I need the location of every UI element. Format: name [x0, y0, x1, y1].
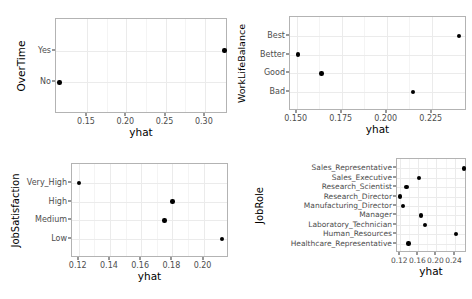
x-tick-mark [385, 110, 386, 113]
gridline-vertical-minor [94, 164, 95, 256]
scatter-panel-figure: OverTimeNoYes0.150.200.250.30yhatWorkLif… [0, 0, 472, 299]
gridline-vertical [455, 159, 456, 251]
x-tick-label: 0.200 [374, 114, 397, 123]
gridline-vertical [166, 19, 167, 112]
y-axis-title-jobsatisfaction: JobSatisfaction [7, 163, 23, 257]
x-tick-label: 0.24 [445, 256, 462, 265]
x-tick-mark [203, 113, 204, 116]
x-tick-mark [430, 110, 431, 113]
y-axis-ticks-jobsatisfaction: LowMediumHighVery_High [25, 163, 71, 257]
data-point [411, 90, 415, 94]
data-point [222, 48, 226, 52]
plot-area-jobrole [396, 158, 466, 252]
data-point [462, 166, 466, 170]
y-tick-label: Best [267, 30, 285, 39]
data-point [406, 241, 410, 245]
x-tick-mark [340, 110, 341, 113]
data-point [77, 181, 81, 185]
y-axis-title-label: WorkLifeBalance [237, 23, 248, 102]
x-tick-mark [86, 113, 87, 116]
x-tick-mark [125, 113, 126, 116]
y-axis-title-label: OverTime [15, 40, 27, 91]
x-tick-mark [295, 110, 296, 113]
gridline-vertical [141, 164, 142, 256]
y-tick-label: Healthcare_Representative [291, 238, 392, 247]
y-tick-label: Manager [359, 210, 392, 219]
panel-jobrole: JobRoleHealthcare_RepresentativeHuman_Re… [236, 150, 472, 299]
gridline-vertical [205, 19, 206, 112]
gridline-horizontal [290, 55, 465, 56]
gridline-horizontal [397, 215, 465, 216]
panel-worklifebalance: WorkLifeBalanceBadGoodBetterBest0.1500.1… [236, 0, 472, 150]
gridline-vertical-minor [126, 164, 127, 256]
y-tick-label: Human_Resources [323, 229, 392, 238]
y-axis-title-jobrole: JobRole [252, 158, 266, 252]
gridline-horizontal [290, 73, 465, 74]
data-point [296, 52, 300, 56]
gridline-vertical-minor [146, 19, 147, 112]
gridline-vertical-minor [185, 19, 186, 112]
gridline-vertical-minor [409, 159, 410, 251]
gridline-vertical [418, 159, 419, 251]
y-axis-title-worklifebalance: WorkLifeBalance [235, 16, 249, 110]
y-tick-label: Research_Scientist [322, 182, 392, 191]
y-axis-ticks-overtime: NoYes [31, 18, 55, 113]
y-tick-label: Sales_Representative [312, 163, 392, 172]
x-tick-label: 0.225 [419, 114, 442, 123]
gridline-horizontal [397, 225, 465, 226]
x-tick-label: 0.14 [100, 261, 118, 270]
plot-area-jobsatisfaction [71, 163, 228, 257]
y-tick-label: Better [260, 49, 285, 58]
x-tick-label: 0.25 [156, 117, 174, 126]
x-tick-label: 0.20 [194, 261, 212, 270]
gridline-horizontal [397, 206, 465, 207]
y-tick-label: Research_Director [324, 191, 392, 200]
x-tick-mark [399, 252, 400, 255]
x-tick-label: 0.30 [195, 117, 213, 126]
gridline-vertical [297, 17, 298, 109]
gridline-vertical-minor [188, 164, 189, 256]
gridline-vertical [126, 19, 127, 112]
gridline-vertical-minor [364, 17, 365, 109]
gridline-vertical [432, 17, 433, 109]
gridline-vertical [87, 19, 88, 112]
gridline-vertical-minor [427, 159, 428, 251]
x-tick-label: 0.12 [391, 256, 408, 265]
gridline-horizontal [56, 51, 226, 52]
x-tick-mark [171, 257, 172, 260]
plot-area-overtime [55, 18, 227, 113]
y-tick-label: No [40, 77, 51, 86]
x-tick-mark [77, 257, 78, 260]
x-tick-label: 0.150 [284, 114, 307, 123]
panel-overtime: OverTimeNoYes0.150.200.250.30yhat [0, 0, 236, 150]
panel-jobsatisfaction: JobSatisfactionLowMediumHighVery_High0.1… [0, 150, 236, 299]
plot-area-worklifebalance [289, 16, 466, 110]
y-tick-label: High [49, 196, 67, 205]
y-axis-title-label: JobSatisfaction [10, 173, 21, 247]
y-tick-label: Manufacturing_Director [304, 201, 392, 210]
data-point [423, 223, 427, 227]
y-tick-label: Very_High [27, 177, 67, 186]
x-tick-label: 0.18 [162, 261, 180, 270]
y-tick-label: Medium [35, 215, 67, 224]
gridline-horizontal [72, 183, 227, 184]
gridline-horizontal [72, 202, 227, 203]
gridline-vertical [387, 17, 388, 109]
gridline-vertical [172, 164, 173, 256]
data-point [170, 199, 174, 203]
data-point [398, 194, 402, 198]
x-tick-label: 0.12 [69, 261, 87, 270]
gridline-vertical-minor [107, 19, 108, 112]
y-tick-label: Yes [38, 45, 51, 54]
data-point [220, 237, 224, 241]
x-tick-mark [202, 257, 203, 260]
gridline-horizontal [290, 36, 465, 37]
gridline-vertical-minor [409, 17, 410, 109]
gridline-vertical-minor [446, 159, 447, 251]
x-axis-title-overtime: yhat [55, 126, 227, 138]
y-tick-label: Good [264, 68, 285, 77]
data-point [419, 213, 423, 217]
gridline-horizontal [72, 239, 227, 240]
x-tick-mark [164, 113, 165, 116]
data-point [162, 218, 166, 222]
